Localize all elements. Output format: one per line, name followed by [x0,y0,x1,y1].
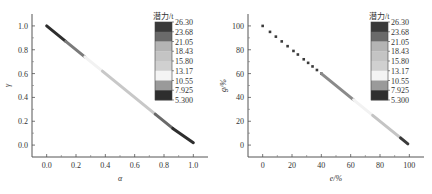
x-tick-label: 0.4 [100,161,110,170]
y-axis-label: γ [3,83,12,87]
colorbar-level-label: 10.55 [391,77,409,86]
y-tick-label: 0 [240,141,244,150]
colorbar-level-label: 23.68 [175,28,193,37]
chart-left: 0.00.20.40.60.81.00.00.20.40.60.81.0αγ潜力… [0,0,216,194]
x-tick-label: 1.0 [188,161,198,170]
data-segment [401,138,408,144]
colorbar-level-label: 13.17 [391,67,409,76]
colorbar-swatch [155,32,172,42]
colorbar-swatch [155,61,172,71]
colorbar-level-label: 21.05 [391,38,409,47]
colorbar-swatch [155,22,172,32]
colorbar-swatch [155,42,172,52]
chart-left-svg: 0.00.20.40.60.81.00.00.20.40.60.81.0αγ潜力… [0,0,216,194]
colorbar-swatch [155,81,172,91]
data-point [311,65,314,68]
x-tick-label: 40 [317,161,325,170]
y-axis-label: g/% [219,79,228,92]
data-segment [321,74,353,100]
x-tick-label: 0.6 [130,161,140,170]
colorbar-swatch [371,71,388,81]
data-segment [173,128,194,142]
colorbar-level-label: 26.30 [175,18,193,27]
y-tick-label: 1.0 [18,22,28,31]
y-tick-label: 0.8 [18,46,28,55]
data-segment [66,41,85,56]
data-point [292,50,295,53]
colorbar-level-label: 18.43 [175,47,193,56]
data-point [280,40,283,43]
colorbar-level-label: 21.05 [175,38,193,47]
data-point [307,62,310,65]
colorbar-level-label: 7.925 [175,86,193,95]
data-segment [354,100,373,115]
colorbar-level-label: 18.43 [391,47,409,56]
colorbar-level-label: 10.55 [175,77,193,86]
colorbar-level-label: 13.17 [175,67,193,76]
x-tick-label: 0.0 [42,161,52,170]
data-point [275,35,278,38]
data-point [286,45,289,48]
colorbar-level-label: 7.925 [391,86,409,95]
colorbar-level-label: 23.68 [391,28,409,37]
y-tick-label: 100 [232,22,244,31]
y-tick-label: 0.2 [18,117,28,126]
y-tick-label: 80 [236,46,244,55]
data-point [261,25,264,28]
data-segment [85,57,103,71]
x-tick-label: 60 [347,161,355,170]
x-axis-label: α [118,174,123,183]
colorbar-swatch [371,90,388,100]
colorbar-swatch [371,61,388,71]
data-point [316,69,319,72]
data-point [302,58,305,61]
colorbar-swatch [155,90,172,100]
colorbar-level-label: 15.80 [391,57,409,66]
colorbar-swatch [371,22,388,32]
y-tick-label: 60 [236,70,244,79]
colorbar-title: 潜力/t [369,11,390,21]
colorbar-level-label: 5.300 [391,96,409,105]
colorbar-swatch [371,32,388,42]
y-tick-label: 0.4 [18,93,28,102]
x-axis-label: e/% [330,174,343,183]
x-tick-label: 100 [403,161,415,170]
data-segment [47,26,66,41]
colorbar-swatch [371,81,388,91]
colorbar-title: 潜力/t [153,11,174,21]
y-tick-label: 0.6 [18,70,28,79]
y-tick-label: 0.0 [18,141,28,150]
x-tick-label: 0.8 [159,161,169,170]
colorbar-level-label: 5.300 [175,96,193,105]
data-segment [373,115,401,138]
x-tick-label: 0 [261,161,265,170]
colorbar-swatch [155,71,172,81]
x-tick-label: 0.2 [71,161,81,170]
chart-right: 020406080100020406080100e/%g/%潜力/t26.302… [216,0,432,194]
colorbar-swatch [155,51,172,61]
x-tick-label: 80 [376,161,384,170]
colorbar-level-label: 15.80 [175,57,193,66]
data-point [269,31,272,34]
data-segment [102,71,155,114]
colorbar-level-label: 26.30 [391,18,409,27]
y-tick-label: 40 [236,93,244,102]
colorbar-swatch [371,42,388,52]
chart-right-svg: 020406080100020406080100e/%g/%潜力/t26.302… [216,0,432,194]
data-point [297,53,300,56]
data-segment [155,114,173,128]
colorbar-swatch [371,51,388,61]
x-tick-label: 20 [288,161,296,170]
y-tick-label: 20 [236,117,244,126]
